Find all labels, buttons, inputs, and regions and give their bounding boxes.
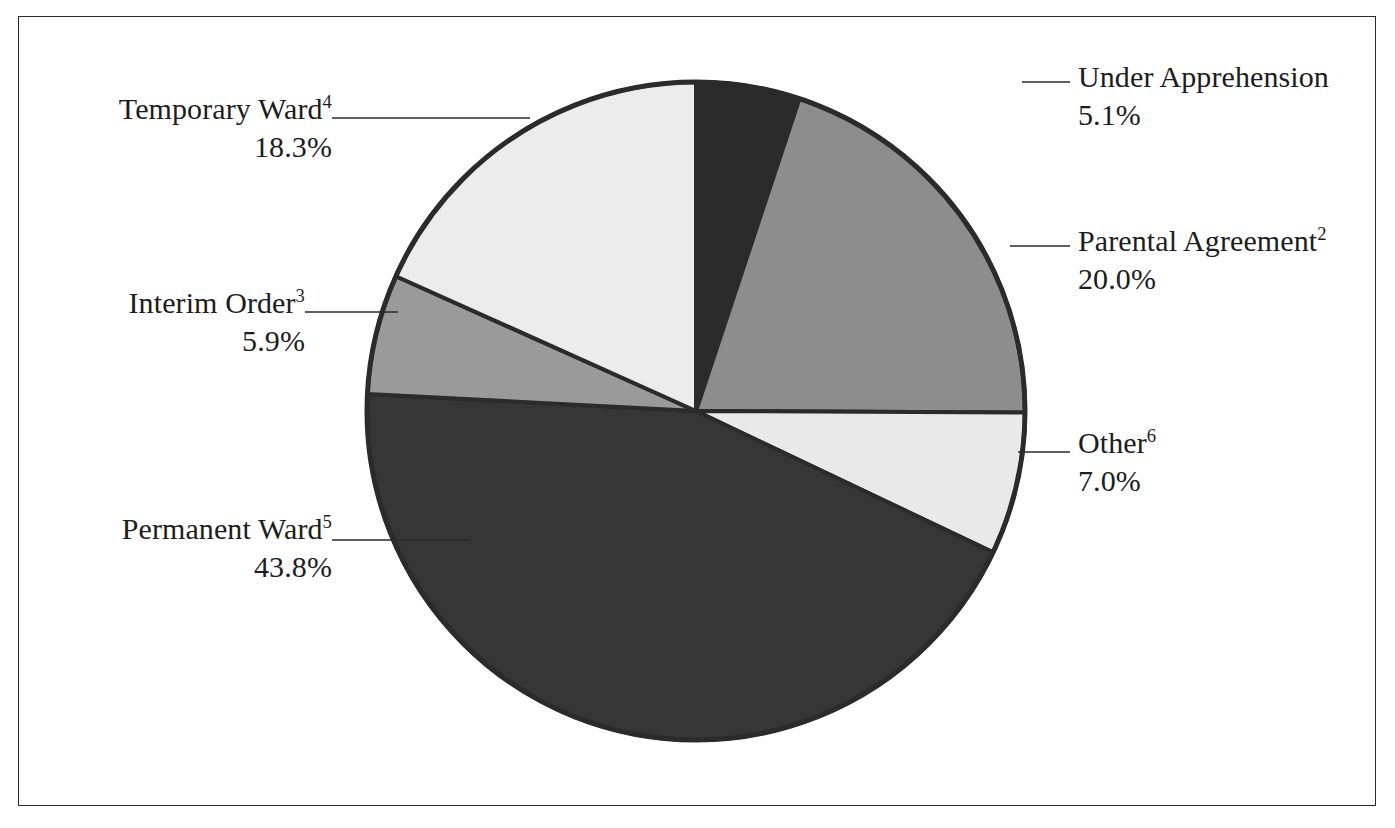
slice-label-percent: 5.9% <box>129 322 305 360</box>
slice-label-percent: 20.0% <box>1078 260 1327 298</box>
slice-label-footnote: 5 <box>323 511 332 532</box>
pie-slice-group <box>367 82 1025 740</box>
slice-label-name: Interim Order3 <box>129 286 305 319</box>
slice-label-percent: 18.3% <box>119 128 332 166</box>
slice-label-name: Permanent Ward5 <box>122 512 332 545</box>
slice-label-name: Under Apprehension <box>1078 60 1329 93</box>
slice-label-parental-agreement: Parental Agreement2 20.0% <box>1078 222 1327 298</box>
slice-label-footnote: 3 <box>296 285 305 306</box>
slice-label-percent: 7.0% <box>1078 462 1156 500</box>
slice-label-name: Parental Agreement2 <box>1078 224 1327 257</box>
slice-label-footnote: 4 <box>323 91 332 112</box>
slice-label-other: Other6 7.0% <box>1078 424 1156 500</box>
slice-label-percent: 43.8% <box>122 548 332 586</box>
slice-label-permanent-ward: Permanent Ward5 43.8% <box>122 510 332 586</box>
slice-label-name: Other6 <box>1078 426 1156 459</box>
slice-label-interim-order: Interim Order3 5.9% <box>129 284 305 360</box>
slice-label-footnote: 2 <box>1317 223 1326 244</box>
pie-chart-figure: Under Apprehension 5.1% Parental Agreeme… <box>0 0 1395 828</box>
slice-label-percent: 5.1% <box>1078 96 1329 134</box>
slice-label-under-apprehension: Under Apprehension 5.1% <box>1078 58 1329 134</box>
slice-label-footnote: 6 <box>1147 425 1156 446</box>
slice-label-temporary-ward: Temporary Ward4 18.3% <box>119 90 332 166</box>
slice-label-name: Temporary Ward4 <box>119 92 332 125</box>
